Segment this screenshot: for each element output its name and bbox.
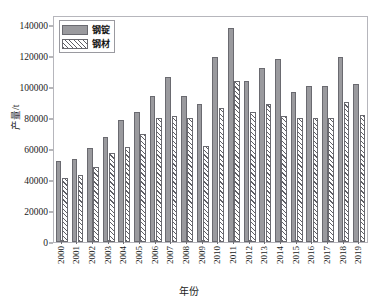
bar-2006-gangcai: [156, 118, 162, 242]
y-tick-label: 20000: [24, 207, 48, 217]
x-tick-label: 2016: [306, 246, 316, 264]
bar-2005-gangcai: [140, 134, 146, 242]
x-axis-title: 年份: [0, 283, 377, 298]
bar-2008-gangding: [181, 96, 187, 242]
bar-2011-gangcai: [234, 81, 240, 242]
x-tick-mark: [217, 240, 218, 244]
x-tick-label: 2007: [165, 246, 175, 264]
x-axis-ticks: 2000200120022003200420052006200720082009…: [53, 244, 368, 284]
x-tick-mark: [280, 240, 281, 244]
legend-label-gangcai: 钢材: [92, 37, 110, 50]
bar-2015-gangcai: [297, 118, 303, 242]
x-tick-mark: [249, 240, 250, 244]
x-tick-label: 2017: [322, 246, 332, 264]
bar-2014-gangding: [275, 59, 281, 242]
bar-2010-gangding: [212, 57, 218, 242]
bar-2017-gangding: [322, 86, 328, 242]
x-tick-label: 2000: [56, 246, 66, 264]
bar-2000-gangding: [56, 161, 62, 242]
x-tick-label: 2013: [259, 246, 269, 264]
x-tick-label: 2003: [103, 246, 113, 264]
x-tick-label: 2001: [71, 246, 81, 264]
bar-2007-gangcai: [172, 116, 178, 242]
x-tick-mark: [108, 240, 109, 244]
x-tick-label: 2005: [134, 246, 144, 264]
y-tick-label: 140000: [20, 21, 49, 31]
bar-2015-gangding: [291, 92, 297, 242]
bar-2010-gangcai: [219, 108, 225, 242]
y-tick-label: 60000: [24, 145, 48, 155]
bar-2000-gangcai: [62, 178, 68, 242]
bar-chart-figure: 产量/t 02000040000600008000010000012000014…: [0, 0, 377, 304]
bar-2002-gangding: [87, 148, 93, 242]
bar-2008-gangcai: [187, 118, 193, 242]
x-tick-mark: [170, 240, 171, 244]
legend-swatch-solid-icon: [62, 25, 88, 35]
bar-2007-gangding: [165, 77, 171, 242]
bar-2004-gangding: [118, 120, 124, 242]
y-tick-label: 120000: [20, 52, 49, 62]
bar-2005-gangding: [134, 112, 140, 242]
x-tick-label: 2019: [353, 246, 363, 264]
bar-2011-gangding: [228, 28, 234, 242]
bar-2019-gangcai: [360, 115, 366, 242]
x-tick-mark: [343, 240, 344, 244]
x-tick-mark: [123, 240, 124, 244]
bar-2001-gangcai: [78, 175, 84, 243]
bar-2019-gangding: [353, 84, 359, 242]
x-tick-mark: [311, 240, 312, 244]
x-tick-label: 2008: [181, 246, 191, 264]
bar-2018-gangcai: [344, 102, 350, 242]
bar-2001-gangding: [72, 159, 78, 242]
x-tick-label: 2002: [87, 246, 97, 264]
x-tick-mark: [296, 240, 297, 244]
bar-2009-gangding: [197, 104, 203, 242]
x-tick-mark: [233, 240, 234, 244]
x-tick-mark: [155, 240, 156, 244]
x-tick-mark: [61, 240, 62, 244]
x-tick-mark: [358, 240, 359, 244]
x-tick-label: 2004: [118, 246, 128, 264]
y-tick-label: 40000: [24, 176, 48, 186]
x-tick-mark: [139, 240, 140, 244]
legend-swatch-hatch-icon: [62, 39, 88, 49]
bar-2003-gangcai: [109, 153, 115, 242]
x-tick-mark: [264, 240, 265, 244]
legend-item-gangding: 钢锭: [62, 23, 110, 36]
x-tick-label: 2014: [275, 246, 285, 264]
x-tick-label: 2009: [197, 246, 207, 264]
x-tick-mark: [327, 240, 328, 244]
y-tick-label: 80000: [24, 114, 48, 124]
y-tick-label: 0: [43, 238, 48, 248]
bar-2016-gangcai: [313, 118, 319, 242]
plot-frame: 钢锭 钢材: [53, 16, 368, 243]
bar-2013-gangding: [259, 68, 265, 242]
x-tick-mark: [92, 240, 93, 244]
bar-2016-gangding: [306, 86, 312, 242]
chart-legend: 钢锭 钢材: [59, 20, 115, 53]
bar-2006-gangding: [150, 96, 156, 242]
x-tick-label: 2018: [338, 246, 348, 264]
x-tick-label: 2011: [228, 246, 238, 264]
bar-2009-gangcai: [203, 146, 209, 242]
legend-label-gangding: 钢锭: [92, 23, 110, 36]
x-tick-label: 2015: [291, 246, 301, 264]
bar-2012-gangcai: [250, 112, 256, 242]
bar-2014-gangcai: [281, 116, 287, 242]
legend-item-gangcai: 钢材: [62, 37, 110, 50]
x-tick-mark: [186, 240, 187, 244]
bar-2012-gangding: [244, 81, 250, 242]
bar-2004-gangcai: [125, 147, 131, 242]
x-tick-mark: [76, 240, 77, 244]
x-tick-label: 2006: [150, 246, 160, 264]
bar-2002-gangcai: [93, 167, 99, 242]
y-tick-label: 100000: [20, 83, 49, 93]
x-tick-label: 2012: [244, 246, 254, 264]
bar-2003-gangding: [103, 137, 109, 242]
x-tick-mark: [202, 240, 203, 244]
bar-2018-gangding: [338, 57, 344, 242]
y-axis-ticks: 020000400006000080000100000120000140000: [0, 0, 53, 244]
x-tick-label: 2010: [212, 246, 222, 264]
bar-2017-gangcai: [328, 118, 334, 242]
bar-2013-gangcai: [266, 104, 272, 242]
